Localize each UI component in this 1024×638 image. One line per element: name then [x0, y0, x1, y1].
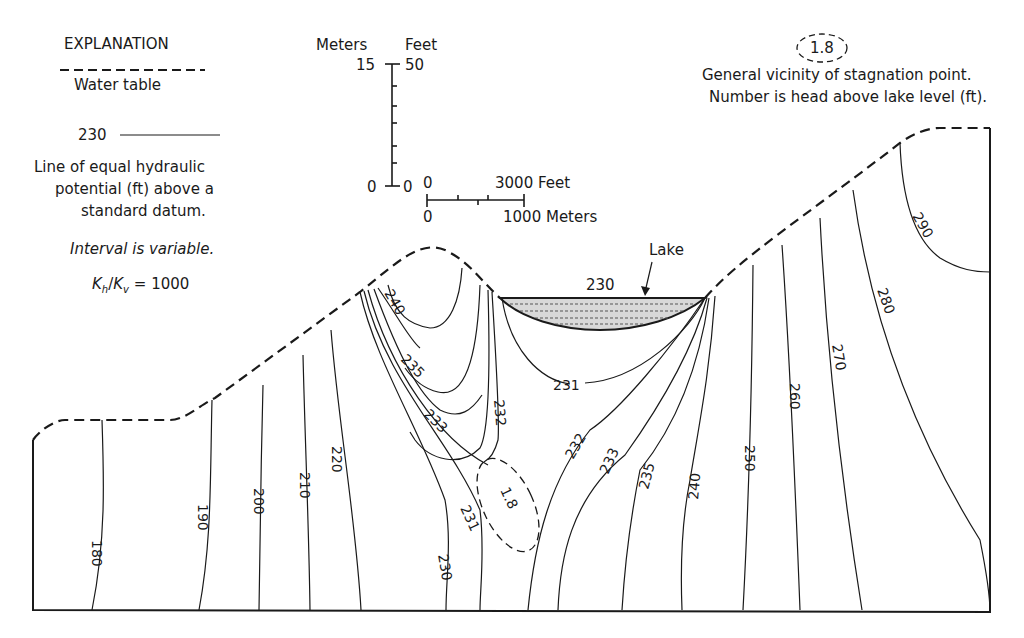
- contour-label-240-left: 240: [381, 287, 408, 318]
- contour-label-290: 290: [909, 210, 936, 241]
- contour-label-230-left: 230: [435, 553, 455, 582]
- legend-anisotropy: Kh/Kv = 1000: [92, 275, 189, 295]
- contour-label-210: 210: [297, 472, 313, 499]
- legend-stagnation-desc-2: Number is head above lake level (ft).: [709, 88, 987, 106]
- legend-water-table-label: Water table: [74, 76, 161, 94]
- contour-label-240-right: 240: [685, 472, 703, 500]
- contour-label-180: 180: [89, 540, 105, 567]
- contour-label-250: 250: [742, 445, 758, 472]
- contour-label-235-right: 235: [635, 461, 657, 491]
- anisotropy-value: = 1000: [134, 275, 190, 293]
- horizontal-scale-bar: [427, 194, 524, 207]
- legend-equipotential-desc-2: potential (ft) above a: [55, 180, 214, 198]
- legend-stagnation-desc-1: General vicinity of stagnation point.: [702, 66, 971, 84]
- contour-label-233-left: 233: [421, 406, 451, 436]
- lake: [500, 298, 705, 330]
- anisotropy-sub-v: v: [123, 284, 129, 295]
- contour-labels: 180 190 200 210 220 230 231 233 235 240 …: [89, 210, 937, 582]
- hscale-bottom-zero: 0: [423, 208, 433, 226]
- contour-label-200: 200: [251, 488, 267, 515]
- legend-stagnation-value: 1.8: [810, 39, 834, 57]
- anisotropy-k1: K: [92, 275, 102, 293]
- legend-interval-note: Interval is variable.: [70, 240, 214, 258]
- hscale-top-zero: 0: [423, 174, 433, 192]
- contour-label-232-left: 232: [491, 399, 509, 427]
- vscale-right-bottom: 0: [403, 178, 413, 196]
- anisotropy-k2: K: [113, 275, 123, 293]
- contour-label-232-right: 232: [562, 430, 589, 461]
- contour-label-220: 220: [329, 446, 345, 473]
- lake-arrow-head: [641, 286, 650, 296]
- lake-label: Lake: [649, 241, 684, 259]
- vscale-left-bottom: 0: [367, 178, 377, 196]
- legend-equipotential-desc-1: Line of equal hydraulic: [34, 158, 205, 176]
- contour-label-231-lake: 231: [553, 377, 580, 393]
- contour-label-190: 190: [195, 504, 211, 531]
- vscale-left-unit: Meters: [316, 36, 367, 54]
- hscale-top-label: 3000 Feet: [495, 174, 570, 192]
- lake-level-label: 230: [586, 276, 615, 294]
- contour-label-260: 260: [787, 383, 803, 410]
- legend-equipotential-desc-3: standard datum.: [81, 202, 206, 220]
- vertical-scale-bar: [385, 64, 400, 186]
- vscale-right-top: 50: [405, 56, 424, 74]
- contour-label-235-left: 235: [398, 351, 428, 381]
- contour-label-270: 270: [829, 343, 849, 372]
- legend-equipotential-value: 230: [78, 126, 107, 144]
- hscale-bottom-label: 1000 Meters: [503, 208, 597, 226]
- vscale-right-unit: Feet: [405, 36, 437, 54]
- vscale-left-top: 15: [356, 56, 375, 74]
- stagnation-value-label: 1.8: [497, 485, 521, 512]
- anisotropy-sub-h: h: [102, 284, 108, 295]
